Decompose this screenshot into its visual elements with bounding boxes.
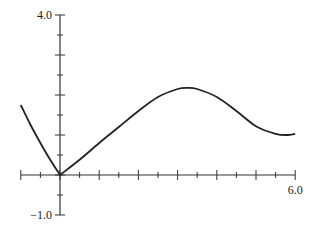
y-tick-label: 4.0 [37, 8, 52, 22]
chart: 4.0−1.06.0 [0, 0, 318, 233]
axes [21, 15, 295, 215]
x-tick-label: 6.0 [288, 183, 303, 197]
function-curve [21, 88, 295, 175]
y-tick-label: −1.0 [30, 208, 52, 222]
axis-labels: 4.0−1.06.0 [30, 8, 302, 222]
